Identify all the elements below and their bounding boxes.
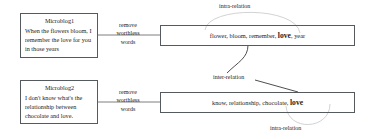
microblog-1-title: Microblog1 bbox=[25, 16, 94, 26]
microblog-1-box: Microblog1 When the flowers bloom, I rem… bbox=[20, 13, 98, 58]
microblog-2-box: Microblog2 I don't know what's the relat… bbox=[20, 80, 98, 124]
intra-relation-label-top: intra-relation bbox=[219, 3, 250, 9]
remove-label-line-1: remove bbox=[104, 88, 152, 96]
keywords-2-box: know, relationship, chocolate, love bbox=[160, 92, 355, 113]
keywords-1-text: flower, bloom, remember, love, year bbox=[210, 31, 305, 40]
keywords-1-prefix: flower, bloom, remember, bbox=[210, 32, 278, 39]
remove-worthless-words-label-bottom: remove worthless words bbox=[104, 88, 152, 113]
microblog-1-text: When the flowers bloom, I remember the l… bbox=[25, 26, 94, 54]
remove-label-line-2: worthless bbox=[104, 96, 152, 104]
remove-label-line-3: words bbox=[104, 38, 152, 46]
remove-label-line-2: worthless bbox=[104, 29, 152, 37]
keywords-2-prefix: know, relationship, chocolate, bbox=[212, 99, 290, 106]
microblog-2-title: Microblog2 bbox=[25, 83, 94, 93]
keywords-2-highlight: love bbox=[290, 98, 303, 107]
remove-label-line-3: words bbox=[104, 105, 152, 113]
keywords-2-text: know, relationship, chocolate, love bbox=[212, 98, 303, 107]
inter-relation-label: inter-relation bbox=[213, 74, 244, 80]
inter-relation-curve-upper bbox=[227, 45, 248, 73]
keywords-1-suffix: , year bbox=[291, 32, 305, 39]
inter-relation-line-lower bbox=[255, 80, 298, 92]
diagram-canvas: Microblog1 When the flowers bloom, I rem… bbox=[0, 0, 371, 139]
keywords-1-box: flower, bloom, remember, love, year bbox=[160, 25, 355, 46]
remove-worthless-words-label-top: remove worthless words bbox=[104, 21, 152, 46]
remove-label-line-1: remove bbox=[104, 21, 152, 29]
keywords-1-highlight: love bbox=[278, 31, 291, 40]
intra-relation-label-bottom: intra-relation bbox=[270, 125, 301, 131]
microblog-2-text: I don't know what's the relationship bet… bbox=[25, 93, 94, 121]
